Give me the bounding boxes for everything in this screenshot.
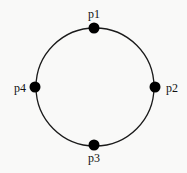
ring-circle: [36, 28, 154, 146]
ring-diagram: p1 p2 p3 p4: [0, 0, 187, 173]
node-p4: [30, 82, 41, 93]
node-label-p2: p2: [166, 81, 178, 95]
node-label-p3: p3: [88, 151, 100, 165]
node-p2: [150, 82, 161, 93]
node-p3: [89, 140, 100, 151]
node-p1: [89, 23, 100, 34]
node-label-p4: p4: [14, 81, 26, 95]
node-label-p1: p1: [88, 7, 100, 21]
